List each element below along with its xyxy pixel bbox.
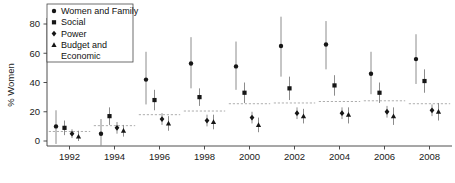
data-point — [54, 124, 58, 128]
data-point — [234, 64, 238, 68]
y-tick-label: 80 — [29, 18, 40, 29]
data-point — [332, 83, 336, 87]
data-point — [189, 61, 193, 65]
legend-marker-circle — [52, 9, 56, 13]
x-tick-label: 2008 — [419, 151, 440, 162]
data-point — [422, 79, 426, 83]
x-tick-label: 1996 — [149, 151, 170, 162]
data-point — [287, 86, 291, 90]
x-tick-label: 1994 — [104, 151, 125, 162]
data-point — [152, 98, 156, 102]
data-point — [279, 44, 283, 48]
data-point — [346, 112, 351, 117]
data-point — [340, 110, 345, 116]
data-point — [160, 116, 165, 122]
data-point — [391, 113, 396, 118]
data-point — [436, 109, 441, 114]
y-tick-label: 20 — [29, 106, 40, 117]
legend-label: Power — [61, 29, 87, 39]
x-tick-label: 2004 — [329, 151, 350, 162]
data-point — [295, 110, 300, 116]
x-tick-label: 1992 — [59, 151, 80, 162]
y-tick-label: 0 — [35, 135, 40, 146]
x-tick-label: 2006 — [374, 151, 395, 162]
x-tick-label: 1998 — [194, 151, 215, 162]
data-point — [250, 115, 255, 121]
data-point — [99, 131, 103, 135]
legend-marker-square — [52, 20, 56, 24]
data-point — [430, 107, 435, 113]
x-tick-label: 2002 — [284, 151, 305, 162]
legend: Women and FamilySocialPowerBudget andEco… — [47, 4, 139, 62]
data-point — [256, 122, 261, 127]
y-tick-label: 60 — [29, 48, 40, 59]
dot-whisker-plot: 020406080 % Women 1992199419961998200020… — [0, 0, 455, 183]
legend-label: Economic — [61, 51, 101, 61]
data-point — [62, 126, 66, 130]
data-point — [107, 114, 111, 118]
data-point — [144, 77, 148, 81]
data-point — [197, 95, 201, 99]
y-tick-group: 020406080 — [29, 18, 47, 146]
y-tick-label: 40 — [29, 77, 40, 88]
legend-label: Budget and — [61, 40, 107, 50]
data-point — [324, 42, 328, 46]
data-point — [301, 113, 306, 118]
data-point — [377, 91, 381, 95]
y-axis: 020406080 % Women — [5, 18, 47, 146]
y-axis-title: % Women — [5, 63, 16, 107]
legend-label: Social — [61, 17, 86, 27]
x-tick-group: 199219941996199820002002200420062008 — [59, 146, 440, 162]
data-point — [414, 57, 418, 61]
data-point — [205, 118, 210, 124]
data-point — [211, 119, 216, 124]
data-point — [385, 109, 390, 115]
data-point — [369, 72, 373, 76]
data-point — [166, 121, 171, 126]
data-point — [76, 134, 81, 139]
data-point — [242, 91, 246, 95]
x-axis: 199219941996199820002002200420062008 — [47, 146, 452, 162]
legend-label: Women and Family — [61, 6, 139, 16]
data-point — [121, 128, 126, 133]
x-tick-label: 2000 — [239, 151, 260, 162]
chart-figure: 020406080 % Women 1992199419961998200020… — [0, 0, 455, 183]
